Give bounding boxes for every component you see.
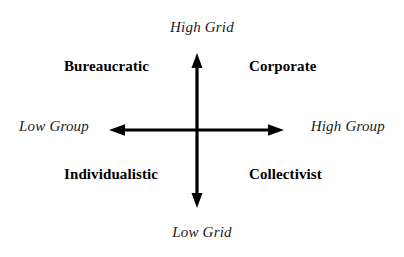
axis-label-high-grid: High Grid	[0, 19, 404, 36]
axis-arrowhead-up-icon	[192, 53, 203, 68]
grid-group-diagram: High Grid Low Grid Low Group High Group …	[0, 0, 404, 257]
axis-label-low-group: Low Group	[19, 118, 89, 135]
quadrant-label-bureaucratic: Bureaucratic	[64, 58, 149, 75]
axis-label-high-group: High Group	[311, 118, 385, 135]
quadrant-label-individualistic: Individualistic	[64, 166, 158, 183]
axis-arrowhead-down-icon	[192, 193, 203, 208]
axis-label-low-grid: Low Grid	[0, 224, 404, 241]
quadrant-label-collectivist: Collectivist	[249, 166, 322, 183]
quadrant-label-corporate: Corporate	[249, 58, 317, 75]
axis-arrowhead-left-icon	[109, 124, 125, 136]
axis-arrowhead-right-icon	[268, 124, 284, 136]
